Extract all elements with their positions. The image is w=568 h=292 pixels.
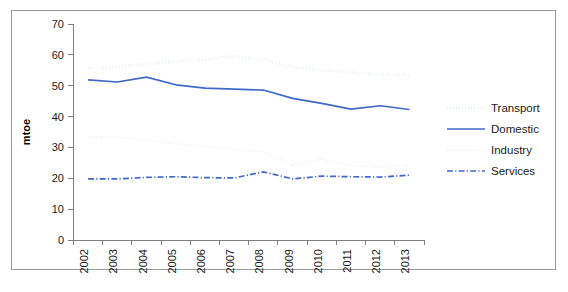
series-line-domestic [88, 77, 409, 109]
x-tick-label: 2007 [224, 249, 236, 273]
chart-series-group [88, 56, 409, 179]
chart-legend: TransportDomesticIndustryServices [447, 102, 541, 177]
x-tick-label: 2008 [253, 249, 265, 273]
x-tick-label: 2013 [399, 249, 411, 273]
x-tick-label: 2010 [312, 249, 324, 273]
x-tick-label: 2005 [166, 249, 178, 273]
series-line-services [88, 172, 409, 179]
x-tick-label: 2009 [283, 249, 295, 273]
y-tick-label: 0 [58, 234, 64, 246]
legend-label-transport: Transport [491, 102, 541, 114]
legend-label-industry: Industry [491, 144, 532, 156]
chart-figure: 010203040506070 200220032004200520062007… [0, 0, 568, 292]
y-tick-label: 10 [52, 203, 64, 215]
y-tick-label: 20 [52, 172, 64, 184]
series-line-transport [88, 56, 409, 75]
y-tick-label: 40 [52, 111, 64, 123]
series-line-industry [88, 137, 409, 167]
x-tick-label: 2011 [341, 249, 353, 273]
x-tick-label: 2004 [137, 249, 149, 273]
y-tick-label: 50 [52, 80, 64, 92]
y-axis-title: mtoe [20, 119, 32, 145]
line-chart: 010203040506070 200220032004200520062007… [0, 0, 568, 292]
y-axis-ticks: 010203040506070 [52, 18, 74, 246]
x-tick-label: 2006 [195, 249, 207, 273]
legend-label-services: Services [491, 165, 535, 177]
y-tick-label: 60 [52, 49, 64, 61]
legend-label-domestic: Domestic [491, 123, 539, 135]
x-axis-ticks: 2002200320042005200620072008200920102011… [74, 240, 425, 273]
y-tick-label: 30 [52, 141, 64, 153]
x-tick-label: 2002 [78, 249, 90, 273]
chart-axes [74, 24, 425, 241]
x-tick-label: 2012 [370, 249, 382, 273]
y-tick-label: 70 [52, 18, 64, 30]
x-tick-label: 2003 [107, 249, 119, 273]
